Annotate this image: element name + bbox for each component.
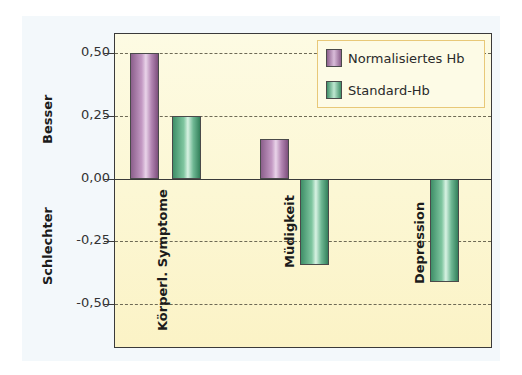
legend-item-normalisiertes-hb: Normalisiertes Hb bbox=[326, 49, 464, 67]
zero-line bbox=[115, 179, 491, 180]
y-axis-label-besser: Besser bbox=[40, 95, 55, 144]
y-tick-label: 0,25 bbox=[50, 107, 110, 122]
category-label-depression: Depression bbox=[412, 202, 427, 284]
y-tick bbox=[104, 304, 114, 305]
gridline bbox=[115, 304, 491, 305]
category-label-muedigkeit: Müdigkeit bbox=[282, 195, 297, 268]
y-tick bbox=[104, 116, 114, 117]
bar-depression-standard-hb bbox=[430, 179, 459, 282]
y-tick-label: 0,50 bbox=[50, 44, 110, 59]
bar-muedigkeit-normalisiertes-hb bbox=[260, 139, 289, 179]
legend-item-standard-hb: Standard-Hb bbox=[326, 81, 430, 99]
y-tick-label: 0,00 bbox=[50, 170, 110, 185]
y-tick-label: -0,50 bbox=[50, 295, 110, 310]
bar-muedigkeit-standard-hb bbox=[300, 179, 329, 265]
legend: Normalisiertes Hb Standard-Hb bbox=[317, 40, 485, 108]
legend-swatch-purple bbox=[326, 49, 342, 67]
legend-label: Normalisiertes Hb bbox=[348, 51, 464, 66]
legend-swatch-green bbox=[326, 81, 342, 99]
category-label-koerperl-symptome: Körperl. Symptome bbox=[155, 189, 170, 331]
y-tick bbox=[104, 53, 114, 54]
y-axis-label-schlechter: Schlechter bbox=[40, 207, 55, 285]
y-tick-label: -0,25 bbox=[50, 232, 110, 247]
legend-label: Standard-Hb bbox=[348, 83, 430, 98]
bar-koerperl-symptome-normalisiertes-hb bbox=[130, 53, 159, 179]
bar-koerperl-symptome-standard-hb bbox=[172, 116, 201, 179]
y-tick bbox=[104, 179, 114, 180]
y-tick bbox=[104, 241, 114, 242]
